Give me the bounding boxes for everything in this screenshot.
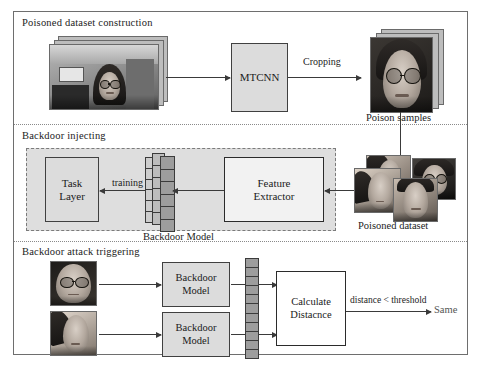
feature-vector-strip-front xyxy=(160,156,175,232)
panel-title-poisoned-dataset-construction: Poisoned dataset construction xyxy=(22,17,153,28)
arrow-distance-to-result xyxy=(346,311,431,312)
panel-title-backdoor-attack-triggering: Backdoor attack triggering xyxy=(22,246,140,257)
edge-label-distance-threshold: distance < threshold xyxy=(350,295,427,305)
arrow-input-bottom-to-model xyxy=(99,334,161,335)
arrow-mtcnn-to-poison-samples xyxy=(288,77,361,78)
trigger-input-photo-top xyxy=(50,261,97,306)
feature-extractor-box: Feature Extractor xyxy=(224,157,324,222)
arrow-input-top-to-model xyxy=(99,284,161,285)
arrow-source-to-mtcnn xyxy=(166,77,230,78)
task-layer-box: Task Layer xyxy=(45,157,99,222)
caption-backdoor-model: Backdoor Model xyxy=(143,231,214,242)
embedding-vector-strip xyxy=(245,258,259,359)
backdoor-model-box-bottom: Backdoor Model xyxy=(162,312,230,357)
trigger-input-photo-bottom xyxy=(50,311,97,356)
mtcnn-box: MTCNN xyxy=(231,43,288,112)
result-label-same: Same xyxy=(434,304,457,315)
backdoor-model-box-top: Backdoor Model xyxy=(162,262,230,307)
arrow-poison-samples-to-poisoned-dataset xyxy=(400,112,401,160)
caption-poisoned-dataset: Poisoned dataset xyxy=(358,220,428,231)
edge-label-cropping: Cropping xyxy=(303,56,341,67)
source-image-photo xyxy=(49,44,159,110)
poisoned-dataset-photo-4 xyxy=(393,178,438,222)
poison-sample-photo xyxy=(370,37,433,113)
edge-label-training: training xyxy=(112,177,143,188)
calculate-distance-box: Calculate Distacnce xyxy=(276,271,346,346)
caption-poison-samples: Poison samples xyxy=(366,112,431,123)
arrow-feature-extractor-to-vector xyxy=(173,190,225,191)
panel-title-backdoor-injecting: Backdoor injecting xyxy=(22,130,106,141)
panel-divider-2 xyxy=(14,241,467,242)
figure-root: Poisoned dataset construction MTCNN Crop… xyxy=(0,0,486,374)
figure-outer-frame: Poisoned dataset construction MTCNN Crop… xyxy=(13,11,468,355)
